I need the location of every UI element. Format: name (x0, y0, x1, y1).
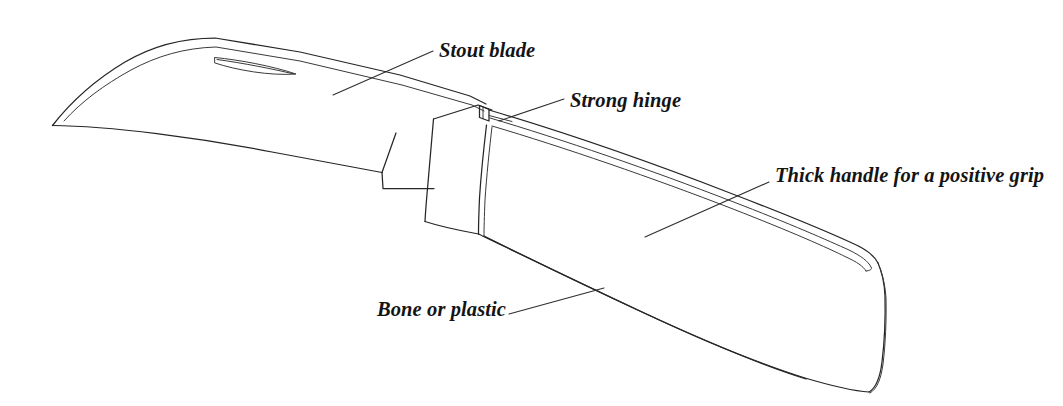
callout-stout-blade: Stout blade (439, 40, 535, 61)
handle-liner-groove-lower (492, 126, 866, 271)
handle-butt-shoulder (869, 263, 885, 392)
leader-thick-handle (645, 182, 769, 237)
bolster-group (425, 105, 512, 236)
handle-liner-groove-return (866, 267, 872, 271)
handle-liner-groove-upper (490, 118, 871, 267)
callout-strong-hinge: Strong hinge (570, 90, 681, 111)
callout-thick-handle: Thick handle for a positive grip (775, 165, 1044, 186)
handle-bottom-edge (479, 234, 870, 392)
bolster-seam-line (484, 127, 492, 236)
blade-spine-inner (64, 47, 484, 121)
blade-spine-outer (53, 38, 487, 126)
blade-cutting-edge (53, 126, 383, 173)
bolster-right-edge (479, 125, 487, 234)
bolster-bottom-edge (425, 222, 479, 235)
handle-top-outer-edge (489, 110, 878, 263)
figure-canvas: Stout blade Strong hinge Thick handle fo… (0, 0, 1063, 406)
leader-bone-plastic (509, 288, 604, 314)
blade-tang-base (382, 173, 434, 189)
leader-stout-blade (333, 51, 433, 95)
blade-tang-step (382, 133, 396, 173)
bolster-left-edge (425, 119, 434, 222)
handle-group (479, 110, 887, 393)
leader-strong-hinge (499, 99, 564, 121)
callout-bone-plastic: Bone or plastic (377, 299, 506, 320)
blade-group (53, 38, 487, 189)
